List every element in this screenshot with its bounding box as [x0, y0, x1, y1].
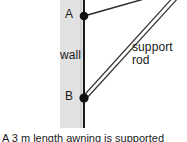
support-rod-label-line2: rod	[132, 53, 150, 67]
beam-line	[84, 0, 187, 16]
support-rod-diagram: A B wall supportrod A 3 m length awning …	[0, 0, 187, 142]
point-b-marker	[79, 93, 88, 102]
point-b-label: B	[65, 90, 73, 103]
diagram-canvas	[0, 0, 187, 142]
support-rod-label-line1: support	[132, 40, 173, 54]
support-rod-label: supportrod	[132, 41, 173, 67]
point-a-label: A	[65, 8, 73, 21]
point-a-marker	[80, 12, 89, 21]
wall-label: wall	[60, 49, 81, 62]
figure-caption: A 3 m length awning is supported	[2, 132, 187, 142]
